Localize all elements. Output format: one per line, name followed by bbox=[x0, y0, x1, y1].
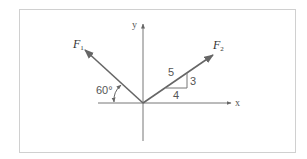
y-axis-label: y bbox=[132, 19, 137, 30]
figure-frame bbox=[20, 10, 296, 153]
x-axis-label: x bbox=[235, 97, 240, 108]
force-vector-diagram: x y F1 60° F2 5 3 4 bbox=[0, 0, 307, 159]
slope-rise-label: 3 bbox=[190, 75, 196, 87]
slope-run-label: 4 bbox=[173, 89, 179, 101]
slope-hypotenuse-label: 5 bbox=[168, 66, 174, 78]
angle-label: 60° bbox=[96, 84, 113, 96]
